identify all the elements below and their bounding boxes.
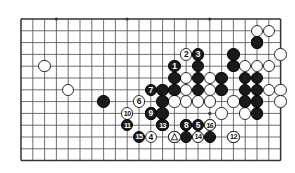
move-stone-9: 9 [145, 107, 158, 120]
black-stone [251, 107, 264, 120]
white-stone [227, 95, 240, 108]
white-stone [215, 107, 228, 120]
move-stone-10: 10 [121, 107, 134, 120]
black-stone [156, 84, 169, 97]
black-stone [251, 36, 264, 49]
black-stone [168, 72, 181, 85]
marked-stone-triangle: △ [168, 131, 181, 144]
black-stone [168, 84, 181, 97]
move-stone-1: 1 [168, 60, 181, 73]
go-diagram: △12345678910111213141516 [0, 0, 295, 173]
black-stone [227, 48, 240, 61]
stone-label: 16 [206, 122, 213, 129]
stone-label: 11 [124, 122, 130, 129]
stone-label: 13 [159, 122, 166, 129]
move-stone-3: 3 [192, 48, 205, 61]
white-stone [274, 95, 287, 108]
black-stone [227, 60, 240, 73]
stone-label: 9 [149, 109, 153, 118]
white-stone [204, 95, 217, 108]
white-stone [274, 84, 287, 97]
stone-label: 15 [136, 133, 143, 140]
black-stone [215, 72, 228, 85]
stone-label: 14 [195, 133, 202, 140]
stone-label: △ [171, 132, 178, 141]
black-stone [97, 95, 110, 108]
white-stone [204, 84, 217, 97]
move-stone-7: 7 [145, 84, 158, 97]
stone-label: 3 [196, 50, 200, 59]
stone-label: 8 [184, 121, 188, 130]
black-stone [215, 84, 228, 97]
move-stone-12: 12 [227, 131, 240, 144]
move-stone-2: 2 [180, 48, 193, 61]
white-stone [239, 107, 252, 120]
stone-label: 4 [149, 133, 153, 142]
black-stone [251, 95, 264, 108]
stone-label: 7 [149, 86, 153, 95]
white-stone [263, 84, 276, 97]
white-stone [192, 95, 205, 108]
stone-label: 1 [172, 62, 176, 71]
move-stone-6: 6 [133, 95, 146, 108]
stone-label: 12 [230, 133, 237, 140]
black-stone [156, 107, 169, 120]
stone-label: 10 [124, 110, 131, 117]
white-stone [263, 25, 276, 38]
black-stone [156, 95, 169, 108]
white-stone [168, 95, 181, 108]
white-stone [274, 48, 287, 61]
stone-label: 2 [184, 50, 188, 59]
stone-label: 6 [137, 97, 141, 106]
stone-label: 5 [196, 121, 200, 130]
